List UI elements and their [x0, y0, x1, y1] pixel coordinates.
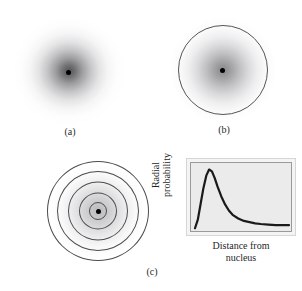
radial-probability-curve — [195, 170, 289, 229]
nucleus-dot-c — [96, 209, 101, 214]
panel-c-caption: (c) — [130, 266, 174, 277]
x-axis-label-line-2: nucleus — [186, 252, 296, 264]
y-axis-label-line-2: probability — [161, 139, 172, 211]
plot-outer-frame — [186, 158, 296, 236]
radial-probability-plot: Radial probability Distance from nucleus — [152, 158, 296, 268]
orbital-figure: (a) (b) Radial probability — [0, 0, 302, 291]
nucleus-dot-b — [220, 68, 225, 73]
nucleus-dot-a — [66, 70, 71, 75]
radial-probability-curve-svg — [191, 163, 291, 231]
y-axis-label: Radial probability — [150, 139, 172, 211]
x-axis-label-line-1: Distance from — [186, 240, 296, 252]
y-axis-label-line-1: Radial — [150, 139, 161, 211]
panel-b-caption: (b) — [202, 124, 246, 135]
panel-a-caption: (a) — [48, 126, 92, 137]
plot-inner-frame — [190, 162, 292, 232]
x-axis-label: Distance from nucleus — [186, 240, 296, 264]
